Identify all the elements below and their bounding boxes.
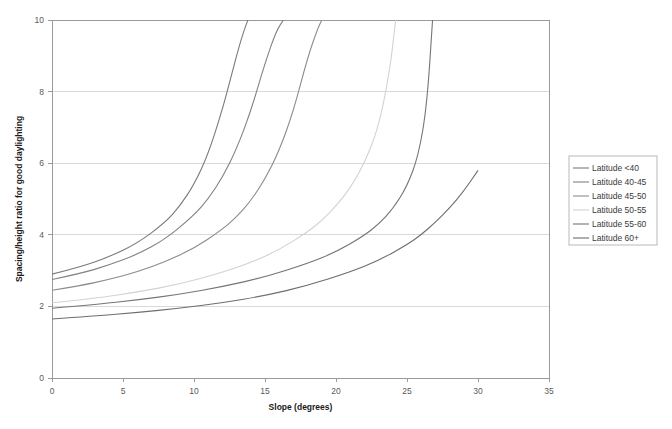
y-tick-label: 2 xyxy=(39,301,44,311)
y-tick-label: 0 xyxy=(39,373,44,383)
chart-canvas: 024681005101520253035Slope (degrees)Spac… xyxy=(0,0,672,429)
x-axis-title: Slope (degrees) xyxy=(269,402,333,412)
y-tick-label: 10 xyxy=(35,15,45,25)
daylighting-chart: 024681005101520253035Slope (degrees)Spac… xyxy=(0,0,672,429)
curve-series-1 xyxy=(52,20,283,280)
legend-label-5: Latitude 60+ xyxy=(592,233,639,243)
x-tick-label: 15 xyxy=(260,386,270,396)
y-axis-title: Spacing/height ratio for good daylightin… xyxy=(14,116,24,282)
x-tick-label: 25 xyxy=(402,386,412,396)
curve-series-3 xyxy=(52,20,396,303)
gridlines xyxy=(52,20,549,306)
x-tick-label: 10 xyxy=(189,386,199,396)
x-tick-label: 30 xyxy=(473,386,483,396)
x-tick-label: 0 xyxy=(50,386,55,396)
legend-label-0: Latitude <40 xyxy=(592,163,639,173)
y-tick-label: 6 xyxy=(39,158,44,168)
axes xyxy=(52,20,549,378)
axis-titles: Slope (degrees)Spacing/height ratio for … xyxy=(14,116,333,412)
legend-label-1: Latitude 40-45 xyxy=(592,177,647,187)
legend: Latitude <40Latitude 40-45Latitude 45-50… xyxy=(569,156,657,245)
x-tick-label: 35 xyxy=(544,386,554,396)
legend-label-4: Latitude 55-60 xyxy=(592,219,647,229)
legend-label-3: Latitude 50-55 xyxy=(592,205,647,215)
curve-series-5 xyxy=(52,170,478,319)
x-tick-label: 5 xyxy=(121,386,126,396)
y-tick-label: 4 xyxy=(39,230,44,240)
y-tick-label: 8 xyxy=(39,87,44,97)
tick-labels: 024681005101520253035 xyxy=(35,15,554,396)
curve-series-0 xyxy=(52,20,248,274)
curves-group xyxy=(52,20,478,319)
x-tick-label: 20 xyxy=(331,386,341,396)
curve-series-2 xyxy=(52,20,322,290)
legend-label-2: Latitude 45-50 xyxy=(592,191,647,201)
